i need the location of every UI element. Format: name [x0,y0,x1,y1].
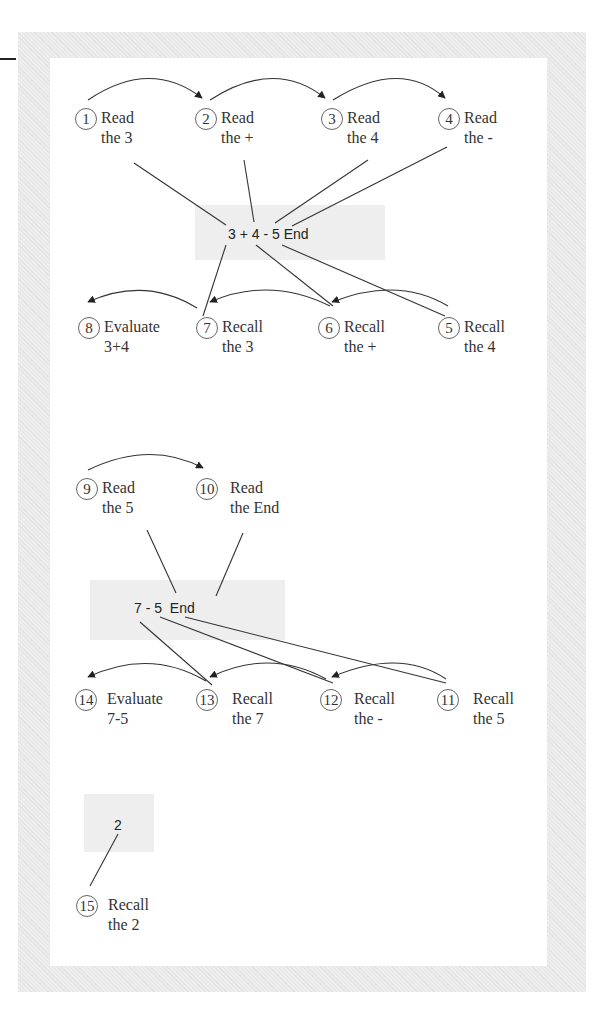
step-number-badge: 3 [321,108,343,130]
step-number-badge: 11 [437,689,459,711]
step-label: Readthe End [230,478,279,518]
step-number-badge: 4 [438,108,460,130]
step-node-4: 4 Readthe - [438,108,497,148]
step-node-15: 15 Recallthe 2 [76,895,149,935]
step-label: Recallthe 7 [232,689,273,729]
step-node-9: 9 Readthe 5 [76,478,135,518]
step-number-badge: 8 [78,317,100,339]
step-node-12: 12 Recallthe - [320,689,395,729]
step-label: Recallthe 4 [464,317,505,357]
step-node-7: 7 Recallthe 3 [196,317,263,357]
step-label: Readthe 5 [102,478,135,518]
step-node-13: 13 Recallthe 7 [196,689,273,729]
step-label: Readthe 3 [101,108,134,148]
step-number-badge: 6 [318,317,340,339]
step-number-badge: 14 [75,689,97,711]
step-number-badge: 15 [76,895,98,917]
step-node-10: 10 Readthe End [196,478,279,518]
step-label: Recallthe 5 [473,689,514,729]
step-label: Recallthe + [344,317,385,357]
step-number-badge: 9 [76,478,98,500]
step-node-2: 2 Readthe + [195,108,254,148]
step-node-1: 1 Readthe 3 [75,108,134,148]
step-label: Recallthe - [354,689,395,729]
step-number-badge: 5 [438,317,460,339]
step-number-badge: 7 [196,317,218,339]
step-label: Recallthe 3 [222,317,263,357]
step-node-14: 14 Evaluate7-5 [75,689,163,729]
step-number-badge: 13 [196,689,218,711]
step-label: Readthe 4 [347,108,380,148]
step-label: Readthe - [464,108,497,148]
step-node-6: 6 Recallthe + [318,317,385,357]
step-node-5: 5 Recallthe 4 [438,317,505,357]
step-label: Evaluate3+4 [104,317,160,357]
step-label: Evaluate7-5 [107,689,163,729]
step-number-badge: 12 [320,689,342,711]
step-number-badge: 2 [195,108,217,130]
step-label: Readthe + [221,108,254,148]
step-node-3: 3 Readthe 4 [321,108,380,148]
step-number-badge: 1 [75,108,97,130]
step-node-11: 11 Recallthe 5 [437,689,514,729]
step-node-8: 8 Evaluate3+4 [78,317,160,357]
step-number-badge: 10 [196,478,218,500]
step-label: Recallthe 2 [108,895,149,935]
